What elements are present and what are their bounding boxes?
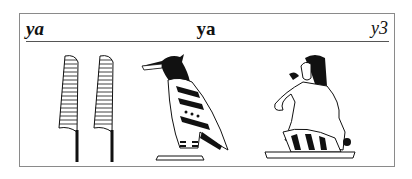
entry-title: ya <box>0 18 412 40</box>
vulture-bird-icon <box>140 52 230 162</box>
double-reed-leaf-icon <box>55 52 125 164</box>
seated-man-hand-to-mouth-icon <box>255 52 365 162</box>
transliteration-right: y3 <box>371 18 388 39</box>
header-rule <box>26 41 389 42</box>
